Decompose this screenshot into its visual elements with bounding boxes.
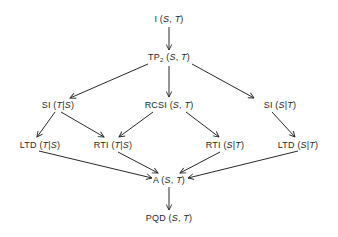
node-prefix: RTI [206,140,221,150]
node-prefix: LTD [20,140,37,150]
arrow-LTD_ST-to-A [188,151,298,178]
node-I: I (S, T) [154,15,183,24]
node-prefix: RTI [94,140,109,150]
close-paren: ) [190,100,193,110]
arrow-RCSI-to-RTI_TS [119,112,153,137]
node-TP2: TP2 (S, T) [148,53,190,63]
close-paren: ) [187,52,190,62]
arrow-RTI_ST-to-A [180,152,220,173]
node-RTI_ST: RTI (S|T) [206,141,245,150]
arrow-TP2-to-SI_ST [192,64,254,98]
close-paren: ) [189,213,192,223]
node-PQD: PQD (S, T) [146,214,193,223]
close-paren: ) [71,100,74,110]
arrow-TP2-to-SI_TS [70,64,148,98]
node-RCSI: RCSI (S, T) [145,101,194,110]
close-paren: ) [315,140,318,150]
node-prefix: RCSI [145,100,167,110]
close-paren: ) [129,140,132,150]
close-paren: ) [182,175,185,185]
node-prefix: LTD [278,140,295,150]
arrow-SI_ST-to-LTD_ST [272,112,295,137]
node-A: A (S, T) [153,176,185,185]
node-prefix: PQD [146,213,166,223]
arrow-LTD_TS-to-A [39,151,152,178]
close-paren: ) [241,140,244,150]
node-prefix: TP [148,52,160,62]
node-RTI_TS: RTI (T|S) [94,141,133,150]
node-LTD_TS: LTD (T|S) [20,141,61,150]
close-paren: ) [180,14,183,24]
node-LTD_ST: LTD (S|T) [278,141,319,150]
arrow-SI_TS-to-LTD_TS [37,112,55,137]
close-paren: ) [57,140,60,150]
edges-layer [0,0,338,237]
node-SI_ST: SI (S|T) [264,101,296,110]
close-paren: ) [293,100,296,110]
node-prefix: SI [42,100,51,110]
arrow-RTI_TS-to-A [118,152,158,173]
arrow-RCSI-to-RTI_ST [186,112,219,137]
node-SI_TS: SI (T|S) [42,101,74,110]
arrow-SI_TS-to-RTI_TS [61,112,104,137]
node-prefix: SI [264,100,273,110]
